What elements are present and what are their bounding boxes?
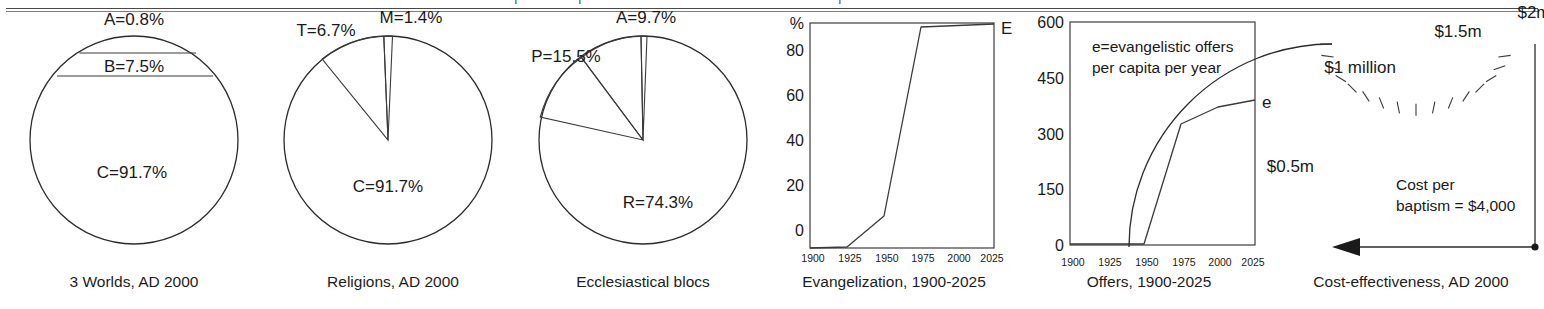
xtick-1900: 1900 bbox=[1061, 256, 1085, 268]
gauge-label-1-5m: $1.5m bbox=[1434, 22, 1481, 41]
series-marker-E: E bbox=[1001, 19, 1012, 38]
gauge-label-2m: $2m bbox=[1517, 3, 1544, 22]
caption-offers: Offers, 1900-2025 bbox=[1020, 273, 1278, 291]
series-marker-e: e bbox=[1262, 93, 1271, 112]
xtick-2025: 2025 bbox=[1241, 256, 1265, 268]
plot-frame bbox=[1070, 22, 1255, 245]
note-offers-line2: per capita per year bbox=[1092, 59, 1221, 76]
ytick-0: 0 bbox=[795, 222, 804, 239]
xtick-2000: 2000 bbox=[1208, 256, 1232, 268]
ytick-150: 150 bbox=[1037, 181, 1064, 198]
series-line-E bbox=[810, 24, 994, 248]
note-offers-line1: e=evangelistic offers bbox=[1092, 38, 1234, 55]
ytick-80: 80 bbox=[786, 42, 804, 59]
xtick-1925: 1925 bbox=[838, 252, 862, 264]
three-worlds-diagram: A=0.8% B=7.5% C=91.7% bbox=[0, 0, 268, 275]
ytick-percent: % bbox=[790, 15, 804, 32]
evangelization-chart: % 80 60 40 20 0 1900 1925 1950 1975 2000… bbox=[768, 0, 1020, 275]
label-slice-t: T=6.7% bbox=[296, 21, 355, 40]
gauge-note-line1: Cost per bbox=[1396, 176, 1455, 193]
gauge-label-0-5m: $0.5m bbox=[1267, 157, 1314, 176]
offers-chart: 600 450 300 150 0 1900 1925 1950 1975 20… bbox=[1020, 0, 1278, 275]
panel-religions: T=6.7% M=1.4% C=91.7% Religions, AD 2000 bbox=[268, 0, 518, 309]
ecclesiastical-pie: A=9.7% P=15.5% R=74.3% bbox=[518, 0, 768, 275]
label-slice-r: R=74.3% bbox=[623, 193, 693, 212]
xtick-2025: 2025 bbox=[980, 252, 1004, 264]
label-slice-a: A=0.8% bbox=[104, 10, 164, 29]
wedge-p bbox=[540, 58, 643, 140]
cost-effectiveness-gauge: $0.5m $1 million $1.5m $2m Cost per bapt… bbox=[1278, 0, 1544, 275]
religions-pie: T=6.7% M=1.4% C=91.7% bbox=[268, 0, 518, 275]
ytick-600: 600 bbox=[1037, 14, 1064, 31]
label-slice-m: M=1.4% bbox=[380, 8, 443, 27]
panel-three-worlds: A=0.8% B=7.5% C=91.7% 3 Worlds, AD 2000 bbox=[0, 0, 268, 309]
caption-evangelization: Evangelization, 1900-2025 bbox=[768, 273, 1020, 291]
ytick-40: 40 bbox=[786, 132, 804, 149]
label-slice-c: C=91.7% bbox=[97, 163, 167, 182]
gauge-tick-marks bbox=[1320, 44, 1511, 116]
panel-offers: 600 450 300 150 0 1900 1925 1950 1975 20… bbox=[1020, 0, 1278, 309]
ytick-60: 60 bbox=[786, 87, 804, 104]
caption-three-worlds: 3 Worlds, AD 2000 bbox=[0, 273, 268, 291]
xtick-1950: 1950 bbox=[1135, 256, 1159, 268]
gauge-pivot-dot bbox=[1531, 243, 1538, 250]
caption-ecclesiastical-blocs: Ecclesiastical blocs bbox=[518, 273, 768, 291]
label-slice-c: C=91.7% bbox=[353, 177, 423, 196]
label-slice-b: B=7.5% bbox=[104, 57, 164, 76]
xtick-1900: 1900 bbox=[801, 252, 825, 264]
gauge-needle-head bbox=[1332, 238, 1360, 256]
label-slice-p: P=15.5% bbox=[531, 47, 600, 66]
panel-ecclesiastical-blocs: A=9.7% P=15.5% R=74.3% Ecclesiastical bl… bbox=[518, 0, 768, 309]
label-slice-a: A=9.7% bbox=[616, 8, 676, 27]
ytick-0: 0 bbox=[1055, 237, 1064, 254]
panel-evangelization: % 80 60 40 20 0 1900 1925 1950 1975 2000… bbox=[768, 0, 1020, 309]
xtick-1975: 1975 bbox=[1172, 256, 1196, 268]
ytick-20: 20 bbox=[786, 177, 804, 194]
gauge-note-line2: baptism = $4,000 bbox=[1396, 197, 1516, 214]
caption-cost-effectiveness: Cost-effectiveness, AD 2000 bbox=[1278, 273, 1544, 291]
xtick-1925: 1925 bbox=[1098, 256, 1122, 268]
wedge-m bbox=[384, 36, 393, 140]
xtick-1950: 1950 bbox=[875, 252, 899, 264]
xtick-1975: 1975 bbox=[911, 252, 935, 264]
caption-religions: Religions, AD 2000 bbox=[268, 273, 518, 291]
figure-sheet: ı ı ı A=0.8% B=7.5% C=91.7% 3 Worlds, AD… bbox=[0, 0, 1544, 309]
wedge-t bbox=[322, 36, 388, 140]
panel-cost-effectiveness: $0.5m $1 million $1.5m $2m Cost per bapt… bbox=[1278, 0, 1544, 309]
ytick-450: 450 bbox=[1037, 70, 1064, 87]
plot-frame bbox=[810, 23, 994, 248]
xtick-2000: 2000 bbox=[947, 252, 971, 264]
ytick-300: 300 bbox=[1037, 126, 1064, 143]
gauge-label-1m: $1 million bbox=[1324, 58, 1396, 77]
series-line-e bbox=[1070, 100, 1255, 244]
